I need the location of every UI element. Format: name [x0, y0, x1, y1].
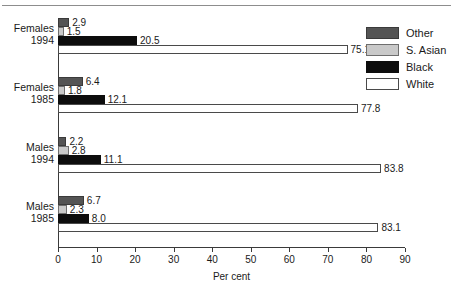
bar-value-label: 77.8	[358, 102, 380, 115]
category-label-line1: Males	[0, 141, 54, 153]
bar-sasian	[58, 146, 69, 155]
category-label: Females1994	[0, 22, 54, 46]
bar-white	[58, 223, 378, 232]
category-label: Males1985	[0, 200, 54, 224]
x-axis-tick	[251, 248, 252, 252]
x-axis-tick-label: 30	[168, 254, 179, 266]
x-axis-tick-label: 20	[130, 254, 141, 266]
category-label-line1: Females	[0, 22, 54, 34]
x-axis-tick-label: 40	[207, 254, 218, 266]
x-axis-tick	[135, 248, 136, 252]
bar-black	[58, 155, 101, 164]
legend-label: Black	[406, 60, 433, 74]
bar-white	[58, 164, 381, 173]
legend-swatch-sasian	[366, 44, 399, 56]
chart-figure: 0102030405060708090 2.91.520.575.16.41.8…	[0, 0, 453, 293]
bar-value-label: 6.7	[84, 194, 101, 207]
legend-label: Other	[406, 26, 434, 40]
bar-other	[58, 137, 66, 146]
plot-area: 0102030405060708090 2.91.520.575.16.41.8…	[58, 18, 405, 247]
category-label-line2: 1985	[0, 212, 54, 224]
bar-sasian	[58, 86, 65, 95]
x-axis-tick	[366, 248, 367, 252]
x-axis-tick-label: 60	[284, 254, 295, 266]
legend-label: S. Asian	[406, 43, 446, 57]
bar-white	[58, 45, 348, 54]
x-axis-tick	[405, 248, 406, 252]
legend-swatch-black	[366, 61, 399, 73]
category-label-line1: Females	[0, 81, 54, 93]
category-label-line2: 1994	[0, 153, 54, 165]
bar-value-label: 83.8	[381, 162, 403, 175]
x-axis-tick	[328, 248, 329, 252]
category-label-line2: 1985	[0, 93, 54, 105]
bar-black	[58, 214, 89, 223]
x-axis-tick-label: 50	[245, 254, 256, 266]
x-axis-tick	[289, 248, 290, 252]
bar-value-label: 83.1	[378, 221, 400, 234]
x-axis-tick-label: 90	[399, 254, 410, 266]
category-label: Males1994	[0, 141, 54, 165]
x-axis-tick-label: 0	[55, 254, 61, 266]
x-axis-tick	[97, 248, 98, 252]
category-label-line1: Males	[0, 200, 54, 212]
x-axis-tick	[174, 248, 175, 252]
legend-swatch-other	[366, 27, 399, 39]
x-axis-label: Per cent	[58, 271, 405, 282]
bar-value-label: 6.4	[83, 75, 100, 88]
x-axis-tick-label: 10	[91, 254, 102, 266]
x-axis-tick	[58, 248, 59, 252]
bar-black	[58, 95, 105, 104]
legend-label: White	[406, 77, 434, 91]
x-axis-tick-label: 70	[322, 254, 333, 266]
x-axis-line	[58, 247, 405, 248]
bar-sasian	[58, 205, 67, 214]
category-label: Females1985	[0, 81, 54, 105]
page-top-rule	[2, 5, 451, 6]
bar-white	[58, 104, 358, 113]
bar-black	[58, 36, 137, 45]
x-axis-tick	[212, 248, 213, 252]
legend-swatch-white	[366, 78, 399, 90]
x-axis-tick-label: 80	[361, 254, 372, 266]
category-label-line2: 1994	[0, 34, 54, 46]
